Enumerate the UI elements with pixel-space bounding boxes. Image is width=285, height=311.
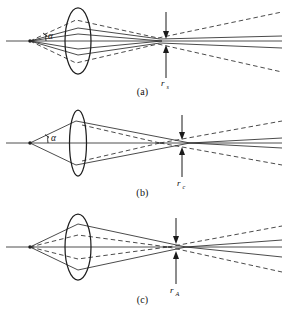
ray-solid-lower-out bbox=[160, 43, 282, 48]
panel-c: r A (c) bbox=[0, 202, 285, 311]
radius-arrow-top-head bbox=[173, 236, 179, 244]
radius-arrow-top-head bbox=[163, 31, 169, 39]
ray-solid-upper bbox=[30, 224, 186, 247]
ray-solid-lower bbox=[30, 143, 190, 165]
ray-solid-inner-lower bbox=[30, 41, 162, 49]
ray-dashed-lower-out bbox=[158, 44, 282, 72]
ray-solid-lower-out bbox=[186, 247, 282, 257]
figure-root: α r s (a) bbox=[0, 0, 285, 311]
ray-solid-lower bbox=[30, 247, 186, 270]
ray-dashed-upper bbox=[82, 125, 160, 143]
panel-b: α r c (b) bbox=[0, 103, 285, 203]
ray-dashed-lower-out bbox=[160, 143, 282, 165]
ray-solid-upper-out bbox=[160, 36, 282, 39]
radius-arrow-bottom-head bbox=[173, 251, 179, 259]
panel-c-caption: (c) bbox=[0, 294, 285, 305]
radius-arrow-bottom-head bbox=[179, 147, 185, 155]
ray-solid-lower-out bbox=[190, 138, 282, 143]
angle-label-alpha: α bbox=[48, 31, 54, 41]
ray-dashed-upper-out bbox=[160, 121, 282, 143]
angle-label-alpha: α bbox=[51, 133, 57, 143]
panel-a-caption: (a) bbox=[0, 86, 285, 97]
ray-dashed-lower bbox=[82, 143, 160, 161]
ray-dashed-upper-out bbox=[158, 12, 282, 38]
panel-a: α r s (a) bbox=[0, 0, 285, 105]
ray-solid-upper-out bbox=[190, 143, 282, 148]
panel-b-caption: (b) bbox=[0, 187, 285, 198]
